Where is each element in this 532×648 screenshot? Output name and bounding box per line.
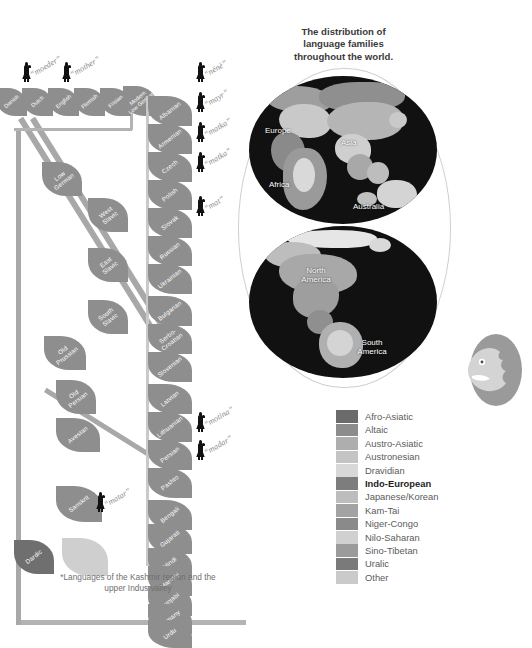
node-old-prussian: OldPrussian	[44, 336, 86, 370]
word-matka-2: “matka”	[203, 146, 233, 169]
legend-swatch	[336, 558, 358, 571]
world-map-panel: The distribution of language families th…	[236, 20, 451, 390]
word-mayr: “mayr”	[203, 88, 230, 109]
legend-label: Kam-Tai	[365, 506, 399, 515]
legend-label: Niger-Congo	[365, 519, 418, 528]
legend-item-austro-asiatic[interactable]: Austro-Asiatic	[336, 437, 506, 450]
legend-item-dravidian[interactable]: Dravidian	[336, 464, 506, 477]
legend-swatch	[336, 504, 358, 517]
legend-item-japanese-korean[interactable]: Japanese/Korean	[336, 490, 506, 503]
map-label-north-america: NorthAmerica	[289, 266, 343, 284]
legend-item-afro-asiatic[interactable]: Afro-Asiatic	[336, 410, 506, 423]
map-label-europe: Europe	[265, 126, 291, 135]
legend-swatch	[336, 451, 358, 464]
map-label-south-america: SouthAmerica	[345, 338, 399, 356]
legend-label: Nilo-Saharan	[365, 533, 420, 542]
legend-item-indo-european[interactable]: Indo-European	[336, 477, 506, 490]
legend-swatch	[336, 410, 358, 423]
legend-swatch	[336, 437, 358, 450]
legend: Afro-Asiatic Altaic Austro-Asiatic Austr…	[336, 410, 506, 584]
legend-item-sino-tibetan[interactable]: Sino-Tibetan	[336, 544, 506, 557]
legend-label: Other	[365, 573, 388, 582]
word-mat: “mat”	[203, 194, 226, 213]
legend-item-nilo-saharan[interactable]: Nilo-Saharan	[336, 531, 506, 544]
leaf-slovak: Slovak	[148, 208, 192, 238]
leaf-lithuanian: Lithuanian	[148, 412, 192, 442]
word-nene: “nënë”	[203, 59, 229, 79]
node-low-german: LowGerman	[42, 162, 82, 196]
legend-label: Dravidian	[365, 466, 405, 475]
legend-label: Austro-Asiatic	[365, 439, 423, 448]
legend-label: Afro-Asiatic	[365, 412, 413, 421]
node-old-persian: OldPersian	[56, 380, 96, 414]
tree-trunk	[16, 620, 246, 625]
legend-label: Altaic	[365, 425, 388, 434]
legend-swatch	[336, 571, 358, 584]
word-motina: “motina”	[203, 405, 236, 429]
legend-label: Uralic	[365, 559, 389, 568]
language-family-tree: Danish Dutch English Flemish Frisian Mod…	[0, 0, 260, 640]
leaf-persian: Persian	[148, 440, 192, 470]
legend-item-austronesian[interactable]: Austronesian	[336, 450, 506, 463]
legend-item-niger-congo[interactable]: Niger-Congo	[336, 517, 506, 530]
leaf-polish: Polish	[148, 180, 192, 210]
legend-item-other[interactable]: Other	[336, 571, 506, 584]
legend-item-altaic[interactable]: Altaic	[336, 423, 506, 436]
leaf-czech: Czech	[148, 152, 192, 182]
leaf-armenian: Armenian	[148, 124, 192, 154]
word-mother: “mother”	[69, 55, 102, 79]
globe-western-hemisphere: NorthAmerica SouthAmerica	[249, 226, 437, 378]
globe-eastern-hemisphere: Europe Asia Africa Australia	[249, 76, 437, 224]
node-east-slavic: EastSlavic	[88, 248, 128, 282]
legend-item-kam-tai[interactable]: Kam-Tai	[336, 504, 506, 517]
word-matka-1: “matka”	[203, 116, 233, 139]
speaking-head-figure	[466, 332, 524, 408]
leaf-russian: Russian	[148, 236, 192, 266]
legend-label: Austronesian	[365, 452, 420, 461]
word-madar: “madar”	[203, 434, 235, 457]
map-label-asia: Asia	[341, 138, 357, 147]
leaf-pashto: Pashto	[148, 468, 192, 498]
map-title: The distribution of language families th…	[236, 26, 451, 63]
footnote: *Languages of the Kashmir region and the…	[58, 572, 218, 594]
legend-swatch	[336, 544, 358, 557]
leaf-albanian: Albanian	[148, 96, 192, 126]
leaf-bulgarian: Bulgarian	[148, 296, 192, 326]
leaf-serbo-croatian: Serbo-Croatian	[148, 324, 192, 354]
legend-swatch	[336, 464, 358, 477]
germanic-crossbar	[14, 128, 132, 131]
word-moeder: “moeder”	[29, 54, 63, 79]
legend-label: Sino-Tibetan	[365, 546, 418, 555]
legend-swatch	[336, 477, 358, 490]
leaf-latvian: Latvian	[148, 384, 192, 414]
node-unlabeled	[62, 538, 108, 576]
node-south-slavic: SouthSlavic	[88, 300, 128, 334]
word-matar: “matar”	[103, 487, 133, 509]
legend-label: Indo-European	[365, 479, 431, 488]
leaf-slovenian: Slovenian	[148, 352, 192, 382]
legend-item-uralic[interactable]: Uralic	[336, 557, 506, 570]
legend-label: Japanese/Korean	[365, 492, 439, 501]
map-label-africa: Africa	[269, 180, 289, 189]
legend-swatch	[336, 518, 358, 531]
leaf-ukrainian: Ukrainian	[148, 264, 192, 294]
node-west-slavic: WestSlavic	[88, 198, 128, 232]
legend-swatch	[336, 424, 358, 437]
map-label-australia: Australia	[353, 202, 384, 211]
legend-swatch	[336, 491, 358, 504]
legend-swatch	[336, 531, 358, 544]
